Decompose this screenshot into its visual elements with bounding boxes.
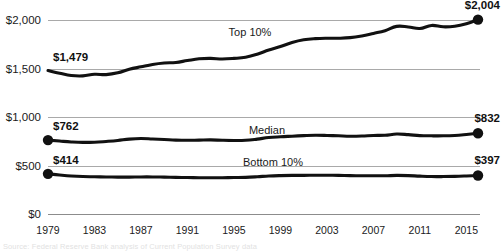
- end-dot-bottom-10: [473, 170, 483, 180]
- start-dot-bottom-10: [43, 169, 53, 179]
- x-axis-tick-label: 2007: [362, 224, 386, 236]
- y-axis-tick-label: $1,500: [6, 63, 41, 75]
- end-value-label-median: $832: [474, 112, 500, 124]
- x-axis-tick-label: 1999: [269, 224, 293, 236]
- gridlines-group: [48, 21, 480, 215]
- series-line-bottom-10: [48, 174, 478, 178]
- series-label-top-10: Top 10%: [229, 26, 272, 38]
- x-axis-tick-label: 2011: [409, 224, 432, 236]
- x-axis-tick-label: 1987: [129, 224, 153, 236]
- start-dot-median: [43, 135, 53, 145]
- y-axis-tick-label: $1,000: [6, 111, 41, 123]
- end-dot-top-10: [473, 14, 483, 24]
- x-axis-tick-label: 1983: [83, 224, 107, 236]
- series-label-median: Median: [249, 124, 285, 136]
- start-value-label-top-10: $1,479: [53, 51, 88, 63]
- source-note: Source: Federal Reserve Bank analysis of…: [3, 242, 257, 251]
- series-label-bottom-10: Bottom 10%: [243, 156, 303, 168]
- end-dot-median: [473, 128, 483, 138]
- y-axis-tick-label: $500: [15, 160, 41, 172]
- end-value-label-bottom-10: $397: [474, 154, 500, 166]
- start-value-label-median: $762: [53, 120, 79, 132]
- y-axis-labels-group: $0$500$1,000$1,500$2,000: [6, 14, 41, 220]
- x-axis-tick-label: 1995: [222, 224, 246, 236]
- series-lines-group: [48, 20, 478, 178]
- x-axis-tick-label: 2003: [315, 224, 339, 236]
- series-inline-labels-group: Top 10%MedianBottom 10%: [229, 26, 304, 168]
- x-axis-tick-label: 1991: [176, 224, 200, 236]
- x-axis-tick-label: 2015: [455, 224, 479, 236]
- end-value-label-top-10: $2,004: [465, 0, 501, 11]
- y-axis-tick-label: $0: [28, 208, 41, 220]
- x-axis-labels-group: 1979198319871991199519992003200720112015: [36, 224, 478, 236]
- y-axis-tick-label: $2,000: [6, 14, 41, 26]
- start-value-label-bottom-10: $414: [53, 154, 79, 166]
- x-axis-tick-label: 1979: [36, 224, 60, 236]
